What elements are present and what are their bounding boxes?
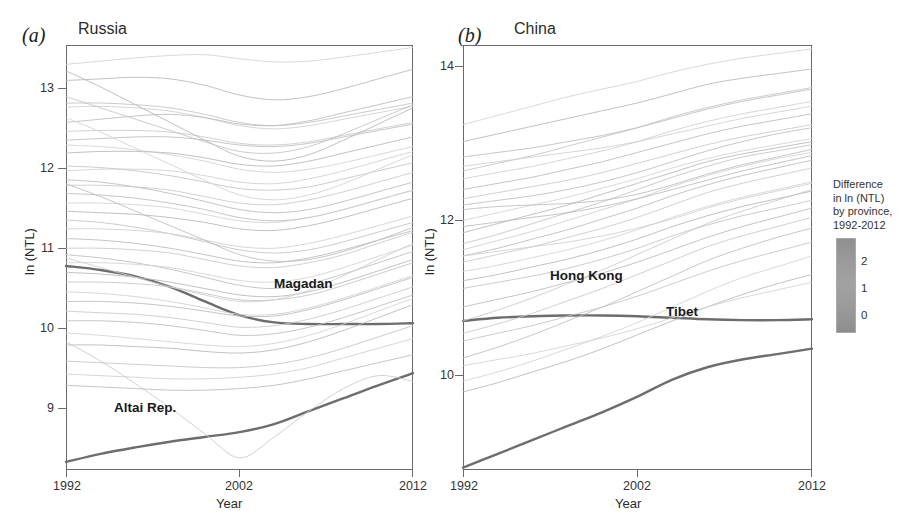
legend-colorbar: Difference in ln (NTL) by province, 1992…: [828, 178, 917, 348]
series-line: [463, 106, 812, 166]
x-tickmark-1992: [66, 470, 67, 477]
y-tickmark-11: [58, 248, 66, 249]
x-tickmark-1992: [463, 470, 464, 477]
legend-caption-line-3: by province,: [833, 205, 917, 219]
series-line: [66, 298, 413, 346]
colorbar-tick-1: 1: [861, 282, 867, 294]
y-tickmark-12: [455, 220, 463, 221]
series-label-altai-rep: Altai Rep.: [114, 400, 176, 415]
y-axis-title-china: ln (NTL): [422, 228, 437, 275]
colorbar-tick-2: 2: [861, 255, 867, 267]
series-line: [463, 228, 812, 358]
series-line: [463, 208, 812, 307]
series-line: [463, 49, 812, 125]
legend-caption-line-2: in ln (NTL): [833, 192, 917, 206]
series-line: [463, 282, 812, 365]
series-line: [463, 160, 812, 256]
y-tick-10: 10: [28, 321, 54, 335]
series-line: [66, 103, 413, 126]
x-tick-2002: 2002: [222, 479, 256, 493]
series-line: [463, 88, 812, 171]
y-tickmark-9: [58, 408, 66, 409]
series-label-hong-kong: Hong Kong: [550, 268, 623, 283]
y-tick-12: 12: [428, 213, 454, 227]
china-series-lines: [440, 0, 840, 529]
x-tick-1992: 1992: [50, 479, 84, 493]
x-tickmark-2012: [811, 470, 812, 477]
series-line: [66, 220, 413, 253]
panel-russia: (a) Russia ln (NTL) 13 12 11 10 9 1992 2…: [0, 0, 440, 529]
russia-series-lines: [0, 0, 440, 529]
y-tickmark-12: [58, 168, 66, 169]
y-tick-13: 13: [28, 81, 54, 95]
x-axis-title-russia: Year: [216, 496, 242, 511]
x-tick-2012: 2012: [795, 479, 829, 493]
series-line: [66, 277, 413, 316]
series-line: [463, 200, 812, 288]
x-tick-1992: 1992: [447, 479, 481, 493]
series-line-highlighted: [66, 373, 413, 462]
y-tickmark-14: [455, 66, 463, 67]
x-tick-2002: 2002: [620, 479, 654, 493]
series-line: [66, 97, 413, 126]
colorbar-tick-0: 0: [861, 309, 867, 321]
x-tickmark-2002: [239, 470, 240, 477]
y-tick-9: 9: [28, 401, 54, 415]
series-line: [463, 142, 812, 233]
x-tick-2012: 2012: [396, 479, 430, 493]
series-line: [463, 114, 812, 190]
series-line: [463, 125, 812, 199]
y-tickmark-13: [58, 88, 66, 89]
colorbar-gradient: [836, 238, 856, 333]
y-tickmark-10: [455, 375, 463, 376]
y-tickmark-10: [58, 328, 66, 329]
x-tickmark-2002: [637, 470, 638, 477]
series-label-tibet: Tibet: [666, 304, 698, 319]
legend-caption-line-1: Difference: [833, 178, 917, 192]
series-line: [66, 260, 413, 297]
series-label-magadan: Magadan: [274, 276, 333, 291]
y-tick-12: 12: [28, 161, 54, 175]
series-line: [463, 156, 812, 227]
x-tickmark-2012: [412, 470, 413, 477]
series-line: [463, 69, 812, 142]
series-line-highlighted: [463, 315, 812, 321]
series-line: [463, 275, 812, 392]
x-axis-title-china: Year: [615, 496, 641, 511]
y-tick-11: 11: [28, 241, 54, 255]
series-line: [66, 339, 413, 380]
y-tick-14: 14: [428, 59, 454, 73]
panel-china: (b) China ln (NTL) 14 12 10 1992 2002 20…: [440, 0, 840, 529]
figure-ntl-trends: (a) Russia ln (NTL) 13 12 11 10 9 1992 2…: [0, 0, 917, 529]
series-line: [66, 47, 413, 64]
legend-caption: Difference in ln (NTL) by province, 1992…: [833, 178, 917, 232]
y-tick-10: 10: [428, 368, 454, 382]
legend-caption-line-4: 1992-2012: [833, 219, 917, 233]
